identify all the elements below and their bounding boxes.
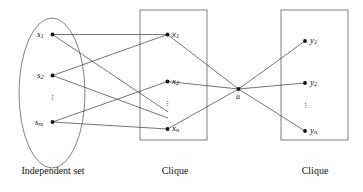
group-shapes xyxy=(19,10,348,168)
caption-independent-set: Independent set xyxy=(3,166,103,176)
ellipsis-independent-set: ... xyxy=(47,92,58,99)
node-label-y2: y2 xyxy=(310,78,317,88)
edge-xn-u xyxy=(168,89,239,129)
node-label-y1: y1 xyxy=(310,36,317,46)
edge-u-y1 xyxy=(239,41,306,89)
clique-right-box xyxy=(281,10,348,140)
edge-u-yn xyxy=(239,89,306,131)
node-label-x2: x2 xyxy=(172,77,179,87)
node-dot-x1 xyxy=(166,33,170,37)
edge-s2-xdots2 xyxy=(53,76,169,119)
node-dot-xn xyxy=(166,127,170,131)
node-label-x1: x1 xyxy=(172,30,179,40)
node-dot-s2 xyxy=(51,74,55,78)
node-dot-y1 xyxy=(303,39,307,43)
edge-u-y2 xyxy=(239,83,306,89)
node-label-xn: xn xyxy=(172,124,179,134)
node-label-s2: s2 xyxy=(37,71,44,81)
diagram-canvas: s1 s2 sm x1 x2 xn u y1 y2 yn ... ... ...… xyxy=(0,0,363,192)
ellipsis-clique-middle: ... xyxy=(162,98,173,105)
edge-sm-xn xyxy=(53,122,168,129)
node-dot-u xyxy=(237,87,241,91)
edges-left xyxy=(53,35,169,130)
node-label-sm: sm xyxy=(35,118,43,128)
node-dot-s1 xyxy=(51,33,55,37)
edge-s1-xdots xyxy=(53,35,169,113)
node-label-yn: yn xyxy=(310,126,317,136)
node-label-u: u xyxy=(236,93,240,102)
node-label-s1: s1 xyxy=(37,30,44,40)
node-dot-sm xyxy=(51,120,55,124)
node-dot-yn xyxy=(303,129,307,133)
ellipsis-clique-right: ... xyxy=(300,100,311,107)
edges-u-to-right xyxy=(239,41,306,131)
edge-s2-x1 xyxy=(53,35,168,76)
node-dot-y2 xyxy=(303,81,307,85)
caption-clique-right: Clique xyxy=(285,166,345,176)
node-dot-x2 xyxy=(166,80,170,84)
caption-clique-middle: Clique xyxy=(145,166,205,176)
edge-sm-x2 xyxy=(53,82,168,123)
